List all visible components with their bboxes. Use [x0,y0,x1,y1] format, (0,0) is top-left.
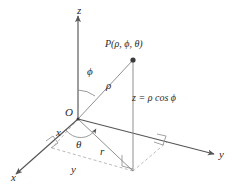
rho-label: ρ [106,80,111,91]
phi-label: ϕ [87,66,93,77]
origin-label: O [65,107,73,118]
z-equation-label: z = ρ cos ϕ [132,93,176,103]
origin-marker [77,118,80,121]
y-axis-projection-line [133,142,167,171]
x-axis-line [16,119,78,174]
theta-angle-arc [66,129,96,138]
theta-label: θ [76,139,81,150]
spherical-coordinates-figure: z y x O P(ρ, ϕ, θ) ρ ϕ θ r x y z = ρ cos… [0,0,232,189]
point-p-marker [130,57,135,62]
y-projection-label: y [71,164,76,175]
phi-angle-arc [78,90,95,96]
y-axis-line [78,119,214,154]
y-axis-label: y [219,149,224,160]
diagram-canvas [0,0,232,189]
z-axis-label: z [77,5,81,16]
x-axis-label: x [11,172,16,183]
r-label: r [100,146,104,157]
x-projection-label: x [56,127,61,138]
point-p-label: P(ρ, ϕ, θ) [105,39,143,49]
